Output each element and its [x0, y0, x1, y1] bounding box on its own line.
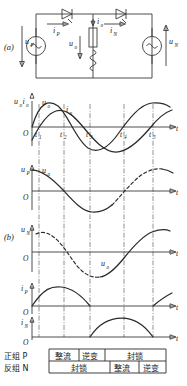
arrow-in-current [104, 22, 126, 26]
curve-label-uo: u [42, 98, 46, 107]
tick-t3: t [86, 130, 89, 139]
axis-label-un2-sub: N [26, 230, 31, 236]
tick-t1: t [35, 130, 38, 139]
label-io-sub: o [101, 22, 104, 28]
origin-label-5: O [23, 338, 29, 347]
axis-label-ip2-sub: P [24, 289, 29, 295]
label-up-sub: P [30, 42, 35, 48]
wave-in: i N O t [21, 317, 179, 347]
arrow-io-current [91, 19, 95, 26]
curve-label-uo2: u [42, 166, 46, 175]
wave-ip: i P O t [21, 283, 179, 317]
waveform-stack: u o i o u o i o O t t 1 t 2 t 3 t 4 t 5 [4, 93, 179, 347]
time-axis-label-5: t [176, 334, 179, 343]
table-cell-n-2: 整流 [114, 363, 130, 373]
curve-label-uo2-sub: o [48, 171, 51, 177]
label-un-sub: N [174, 42, 179, 48]
time-axis-label-1: t [176, 124, 179, 133]
tick-t1-sub: 1 [39, 134, 42, 140]
axis-label-io-sub: o [26, 102, 29, 108]
origin-label-1: O [23, 129, 29, 138]
table-cell-n-3: 逆变 [143, 363, 159, 373]
label-uo-sub: o [75, 44, 78, 50]
label-in-sub: N [113, 31, 118, 37]
label-ip: i [53, 26, 55, 35]
arrow-un-voltage [164, 25, 169, 66]
origin-label-4: O [23, 308, 29, 317]
mode-table: 正组 P 反组 N 整流 逆变 封锁 封锁 整流 逆变 [4, 349, 166, 373]
time-axis-label-3: t [176, 249, 179, 258]
table-cell-n-1: 封锁 [71, 363, 87, 373]
thyristor-p-symbol [62, 9, 72, 23]
tick-t5: t [149, 130, 152, 139]
table-cell-p-3: 封锁 [127, 351, 143, 361]
tick-t5-sub: 5 [153, 134, 156, 140]
axis-label-in2: i [21, 318, 23, 327]
label-in: i [110, 26, 112, 35]
time-axis-label-4: t [176, 303, 179, 312]
circuit-diagram: (a) u P u N i P i N u o i o [4, 9, 179, 78]
tick-t2: t [60, 130, 63, 139]
time-axis-label-2: t [176, 188, 179, 197]
label-ip-sub: P [56, 31, 61, 37]
arrow-ip-current [47, 22, 69, 26]
origin-label-2: O [23, 193, 29, 202]
grid-lines [39, 104, 153, 337]
curve-label-io: i [66, 105, 68, 114]
table-cell-p-2: 逆变 [82, 351, 98, 361]
figure-container: (a) u P u N i P i N u o i o [0, 0, 187, 386]
table-row-label-p: 正组 P [4, 351, 28, 361]
tick-t4-sub: 4 [124, 134, 127, 140]
curve-label-uo3: u [101, 259, 105, 268]
tick-t2-sub: 2 [64, 134, 67, 140]
arrow-up-voltage [20, 26, 25, 67]
axis-label-ip2: i [21, 284, 23, 293]
axis-label-up2: u [21, 165, 25, 174]
wave-up: u P u o O t [21, 165, 179, 212]
source-up [27, 28, 46, 64]
curve-label-io-sub: o [70, 110, 73, 116]
label-io: i [97, 17, 99, 26]
arrow-uo-voltage [78, 36, 82, 59]
curve-label-uo-sub: o [48, 103, 51, 109]
thyristor-n-symbol [116, 9, 126, 23]
panel-b-label: (b) [4, 232, 14, 242]
tick-t4: t [120, 130, 123, 139]
source-un [143, 28, 162, 64]
curve-label-uo3-sub: o [107, 264, 110, 270]
axis-label-io: i [23, 97, 25, 106]
axis-label-uo: u [14, 97, 18, 106]
table-row-label-n: 反组 N [4, 363, 29, 373]
label-un: u [169, 37, 173, 46]
origin-label-3: O [23, 254, 29, 263]
panel-a-label: (a) [4, 42, 14, 52]
label-up: u [25, 37, 29, 46]
tick-t3-sub: 3 [90, 134, 93, 140]
label-uo: u [69, 39, 73, 48]
table-cell-p-1: 整流 [55, 351, 71, 361]
axis-label-un2: u [21, 225, 25, 234]
axis-label-in2-sub: N [24, 323, 29, 329]
